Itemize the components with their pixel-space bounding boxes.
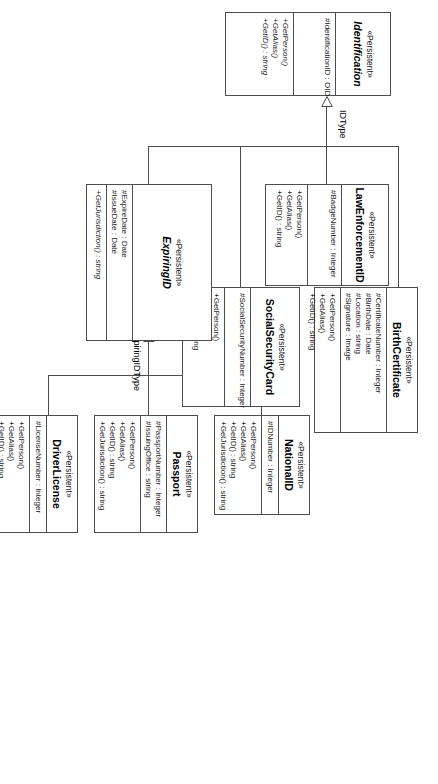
class-attribute: #BadgeNumber : Integer: [328, 190, 338, 280]
class-header-identification: «Persistent» Identification: [336, 13, 390, 95]
class-operation: +GetAlias(): [270, 18, 280, 90]
class-operation: +GetAlias(): [317, 293, 327, 427]
class-operation: +GetAlias(): [284, 190, 294, 280]
class-operations-passport: +GetPerson() +GetAlias() +GetID() : stri…: [94, 416, 141, 532]
class-header-expiring-id: «Persistent» ExpiringID: [133, 185, 211, 340]
class-attributes-birth-certificate: #CertificateNumber : Integer #BirthDate …: [341, 288, 387, 432]
generalization-line-idtype-stem: [326, 106, 327, 146]
class-operations-law-enforcement-id: +GetPerson() +GetAlias() +GetID() : stri…: [271, 185, 308, 285]
class-attribute: #IdentificationID : OID: [322, 18, 332, 90]
class-operation: +GetID() : string: [228, 421, 238, 509]
class-attribute: #BirthDate : Date: [363, 293, 373, 427]
class-attributes-passport: #PassportNumber : Integer #IssuingOffice…: [141, 416, 167, 532]
class-attribute: #CertificateNumber : Integer: [373, 293, 383, 427]
class-name: NationalID: [282, 439, 295, 491]
class-operation: +GetID() : string: [307, 293, 317, 427]
class-operation: +GetID() : string: [0, 421, 6, 527]
class-name: SocialSecurityCard: [263, 299, 276, 395]
class-operations-identification: +GetPerson() +GetAlias() +GetID() : stri…: [257, 13, 294, 95]
class-operation: +GetPerson(): [127, 421, 137, 527]
class-operation: +GetPerson(): [327, 293, 337, 427]
class-attribute: #Location : string: [353, 293, 363, 427]
generalization-branch-passport: [148, 375, 149, 415]
class-attribute: #PassportNumber : Integer: [153, 421, 163, 527]
class-law-enforcement-id[interactable]: «Persistent» LawEnforcementID #BadgeNumb…: [265, 184, 389, 286]
class-operation: +GetPerson(): [211, 293, 221, 401]
class-header-national-id: «Persistent» NationalID: [279, 416, 309, 514]
class-name: BirthCertificate: [390, 322, 403, 398]
class-operation: +GetAlias(): [238, 421, 248, 509]
generalization-line-expiringidtype-stem: [148, 341, 149, 375]
class-attribute: #IDNumber : Integer: [265, 421, 275, 509]
class-expiring-id[interactable]: «Persistent» ExpiringID #ExpireDate : Da…: [86, 184, 212, 341]
class-operations-driver-license: +GetPerson() +GetAlias() +GetID() : stri…: [0, 416, 30, 532]
generalization-branch-driver-license: [48, 375, 49, 415]
class-birth-certificate[interactable]: «Persistent» BirthCertificate #Certifica…: [314, 287, 418, 433]
class-header-law-enforcement-id: «Persistent» LawEnforcementID: [342, 185, 388, 285]
class-operation: +GetPerson(): [16, 421, 26, 527]
class-attributes-driver-license: #LicenseNumber : Integer: [30, 416, 47, 532]
class-header-driver-license: «Persistent» DriverLicense: [47, 416, 77, 532]
class-attributes-social-security-card: #SocialSecurityNumber : Integer: [225, 288, 251, 406]
edge-label-idtype: IDType: [337, 110, 348, 139]
class-operation: +GetAlias(): [6, 421, 16, 527]
class-stereotype: «Persistent»: [295, 441, 306, 488]
class-attribute: #SocialSecurityNumber : Integer: [237, 293, 247, 401]
class-operation: +GetJurisdiction() : string: [93, 190, 103, 335]
class-attribute: #Signature : Image: [343, 293, 353, 427]
class-attributes-law-enforcement-id: #BadgeNumber : Integer: [308, 185, 342, 285]
class-stereotype: «Persistent»: [183, 450, 194, 497]
generalization-branch-law-enforcement-id: [326, 146, 327, 184]
generalization-line-idtype-spine: [149, 146, 399, 147]
class-national-id[interactable]: «Persistent» NationalID #IDNumber : Inte…: [214, 415, 310, 515]
class-operation: +GetPerson(): [294, 190, 304, 280]
class-header-passport: «Persistent» Passport: [167, 416, 197, 532]
class-attribute: #IssueDate : Date: [109, 190, 119, 335]
class-name: LawEnforcementID: [353, 187, 366, 282]
class-operations-birth-certificate: +GetPerson() +GetAlias() +GetID() : stri…: [304, 288, 341, 432]
class-operation: +GetID() : string: [107, 421, 117, 527]
generalization-arrowhead-idtype: [321, 96, 333, 107]
class-stereotype: «Persistent»: [63, 450, 74, 497]
class-operation: +GetAlias(): [117, 421, 127, 527]
generalization-branch-social-security-card: [240, 146, 241, 287]
class-attribute: #ExpireDate : Date: [119, 190, 129, 335]
class-passport[interactable]: «Persistent» Passport #PassportNumber : …: [94, 415, 198, 533]
class-operation: +GetJurisdiction() : string: [97, 421, 107, 527]
generalization-branch-birth-certificate: [398, 146, 399, 287]
class-header-birth-certificate: «Persistent» BirthCertificate: [387, 288, 417, 432]
class-name: DriverLicense: [50, 439, 63, 508]
class-driver-license[interactable]: «Persistent» DriverLicense #LicenseNumbe…: [0, 415, 78, 533]
class-attributes-identification: #IdentificationID : OID: [294, 13, 336, 95]
class-attribute: #IssuingOffice : string: [143, 421, 153, 527]
class-operations-expiring-id: +GetJurisdiction() : string: [90, 185, 107, 340]
class-operation: +GetID() : string: [260, 18, 270, 90]
class-attributes-expiring-id: #ExpireDate : Date #IssueDate : Date: [107, 185, 133, 340]
uml-class-diagram: IDType ExpiringIDType «Persistent» Ident…: [0, 0, 438, 784]
class-stereotype: «Persistent»: [276, 323, 287, 370]
class-name: Passport: [170, 452, 183, 497]
class-stereotype: «Persistent»: [364, 30, 375, 77]
class-stereotype: «Persistent»: [173, 239, 184, 286]
class-operations-national-id: +GetPerson() +GetAlias() +GetID() : stri…: [215, 416, 262, 514]
class-attribute: #LicenseNumber : Integer: [33, 421, 43, 527]
class-stereotype: «Persistent»: [366, 211, 377, 258]
class-operation: +GetPerson(): [248, 421, 258, 509]
class-name: ExpiringID: [160, 236, 173, 289]
class-name: Identification: [351, 21, 364, 86]
class-stereotype: «Persistent»: [403, 336, 414, 383]
class-operation: +GetPerson(): [280, 18, 290, 90]
generalization-branch-expiring-id: [148, 146, 149, 184]
class-operation: +GetID() : string: [274, 190, 284, 280]
class-operation: +GetJurisdiction() : string: [218, 421, 228, 509]
class-header-social-security-card: «Persistent» SocialSecurityCard: [251, 288, 299, 406]
class-attributes-national-id: #IDNumber : Integer: [262, 416, 279, 514]
class-identification[interactable]: «Persistent» Identification #Identificat…: [225, 12, 391, 96]
